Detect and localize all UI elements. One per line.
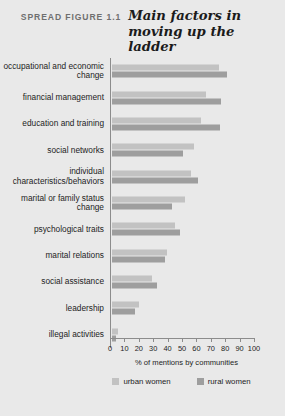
category-label: social assistance xyxy=(0,277,110,286)
chart-legend: urban womenrural women xyxy=(0,377,285,386)
chart-row: financial management xyxy=(0,84,285,110)
bar-rural-women xyxy=(112,309,135,315)
axis-tick-label: 10 xyxy=(120,344,128,353)
bar-rural-women xyxy=(112,177,198,183)
legend-item-rural: rural women xyxy=(197,377,251,386)
chart-row: individual characteristics/behaviors xyxy=(0,163,285,189)
bar-rural-women xyxy=(112,203,172,209)
category-label: financial management xyxy=(0,93,110,102)
axis-tick-labels: 0102030405060708090100 xyxy=(110,344,258,356)
bar-rural-women xyxy=(112,283,157,289)
chart-row: social networks xyxy=(0,137,285,163)
bar-rural-women xyxy=(112,124,220,130)
category-label: occupational and economic change xyxy=(0,62,110,81)
chart-row: occupational and economic change xyxy=(0,58,285,84)
page-title: Main factors in moving up the ladder xyxy=(128,8,268,55)
bar-group xyxy=(110,84,285,110)
axis-tick xyxy=(182,338,183,342)
axis-tick-label: 100 xyxy=(248,344,260,353)
chart-plot-area: occupational and economic changefinancia… xyxy=(0,58,285,348)
axis-tick xyxy=(139,338,140,342)
figure-kicker: SPREAD FIGURE 1.1 xyxy=(21,8,121,22)
bar-group xyxy=(110,216,285,242)
axis-tick-label: 0 xyxy=(108,344,112,353)
chart-row: marital relations xyxy=(0,243,285,269)
chart-x-axis: 0102030405060708090100 % of mentions by … xyxy=(0,338,285,367)
category-label: leadership xyxy=(0,304,110,313)
bar-group xyxy=(110,163,285,189)
axis-tick xyxy=(153,338,154,342)
legend-label: urban women xyxy=(123,377,170,386)
legend-item-urban: urban women xyxy=(112,377,170,386)
axis-tick-label: 50 xyxy=(178,344,186,353)
axis-tick-label: 90 xyxy=(235,344,243,353)
axis-tick-label: 40 xyxy=(163,344,171,353)
axis-tick xyxy=(211,338,212,342)
bar-rural-women xyxy=(112,72,227,78)
category-label: psychological traits xyxy=(0,225,110,234)
bar-rural-women xyxy=(112,98,221,104)
axis-tick-label: 60 xyxy=(192,344,200,353)
figure-header-inner: SPREAD FIGURE 1.1 Main factors in moving… xyxy=(17,8,268,55)
chart-row: marital or family status change xyxy=(0,190,285,216)
bar-group xyxy=(110,137,285,163)
bar-group xyxy=(110,295,285,321)
bar-group xyxy=(110,58,285,84)
bar-rural-women xyxy=(112,151,183,157)
chart-row: social assistance xyxy=(0,269,285,295)
axis-tick-label: 30 xyxy=(149,344,157,353)
category-label: social networks xyxy=(0,146,110,155)
axis-tick xyxy=(196,338,197,342)
axis-tick-label: 20 xyxy=(135,344,143,353)
bar-rural-women xyxy=(112,256,165,262)
legend-swatch-icon xyxy=(197,378,204,385)
category-label: marital or family status change xyxy=(0,194,110,213)
bar-group xyxy=(110,243,285,269)
axis-tick xyxy=(240,338,241,342)
axis-tick xyxy=(124,338,125,342)
legend-swatch-icon xyxy=(112,378,119,385)
axis-tick xyxy=(168,338,169,342)
bar-rural-women xyxy=(112,230,180,236)
bar-group xyxy=(110,111,285,137)
figure-header: SPREAD FIGURE 1.1 Main factors in moving… xyxy=(0,8,285,48)
axis-tick-label: 70 xyxy=(207,344,215,353)
axis-tick xyxy=(225,338,226,342)
category-label: marital relations xyxy=(0,251,110,260)
category-label: education and training xyxy=(0,119,110,128)
chart-row: psychological traits xyxy=(0,216,285,242)
bar-group xyxy=(110,190,285,216)
axis-title: % of mentions by communities xyxy=(0,358,285,367)
legend-label: rural women xyxy=(208,377,251,386)
chart-row: leadership xyxy=(0,295,285,321)
chart-row: education and training xyxy=(0,111,285,137)
axis-tick xyxy=(254,338,255,342)
axis-tick-label: 80 xyxy=(221,344,229,353)
bar-group xyxy=(110,269,285,295)
axis-tick xyxy=(110,338,111,342)
figure-card: SPREAD FIGURE 1.1 Main factors in moving… xyxy=(0,0,285,416)
category-label: individual characteristics/behaviors xyxy=(0,167,110,186)
